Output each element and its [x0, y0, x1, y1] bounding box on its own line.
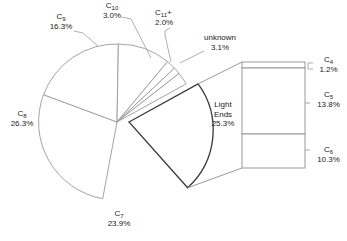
bar-label-ticks: [305, 103, 310, 150]
pie-label-unknown-category: unknown: [196, 33, 244, 43]
pie-label-c9-category: C9: [42, 12, 80, 22]
chart-canvas: [0, 0, 347, 241]
bar-label-c5: C5 13.8%: [312, 90, 345, 109]
bar-label-c5-category: C5: [312, 90, 345, 100]
pie-label-c7: C7 23.9%: [99, 209, 139, 228]
bar-label-c4-value: 1.2%: [312, 65, 345, 75]
bar-label-c4-category: C4: [312, 55, 345, 65]
pie-label-c7-category: C7: [99, 209, 139, 219]
pie-label-c8-category: C8: [2, 109, 42, 119]
pie-label-unknown: unknown 3.1%: [196, 33, 244, 52]
pie-label-c7-value: 23.9%: [99, 219, 139, 229]
bar-label-c6-value: 10.3%: [312, 155, 345, 165]
pie-label-c8: C8 26.3%: [2, 109, 42, 128]
bar-label-c5-value: 13.8%: [312, 100, 345, 110]
pie-label-c9-value: 16.3%: [42, 22, 80, 32]
pie-label-light-ends: Light Ends 25.3%: [203, 100, 243, 129]
bar-label-c6-category: C6: [312, 145, 345, 155]
bar-label-c6: C6 10.3%: [312, 145, 345, 164]
pie-label-c11plus-value: 2.0%: [155, 18, 201, 28]
bar-of-pie-chart: C9 16.3% C10 3.0% C11+ 2.0% unknown 3.1%…: [0, 0, 347, 241]
leader-line-unknown: [180, 51, 204, 63]
pie-label-c10: C10 3.0%: [93, 1, 131, 20]
pie-label-c10-category: C10: [93, 1, 131, 11]
pie-label-c10-value: 3.0%: [93, 11, 131, 21]
stacked-bar-group: [242, 62, 305, 168]
connector-top-line: [198, 62, 242, 84]
bar-segment-c6[interactable]: [242, 134, 305, 168]
pie-label-light-ends-line2: Ends: [203, 110, 243, 120]
leader-line-c9: [74, 31, 98, 46]
pie-label-c11plus-category: C11+: [155, 8, 201, 18]
pie-label-c11plus: C11+ 2.0%: [155, 8, 201, 27]
bar-label-c4: C4 1.2%: [312, 55, 345, 74]
bar-segment-c5[interactable]: [242, 68, 305, 134]
pie-label-c8-value: 26.3%: [2, 119, 42, 129]
pie-label-light-ends-value: 25.3%: [203, 119, 243, 129]
pie-label-unknown-value: 3.1%: [196, 43, 244, 53]
leader-line-c11plus: [165, 28, 171, 62]
pie-label-light-ends-line1: Light: [203, 100, 243, 110]
pie-label-c9: C9 16.3%: [42, 12, 80, 31]
bar-segment-c4[interactable]: [242, 62, 305, 68]
